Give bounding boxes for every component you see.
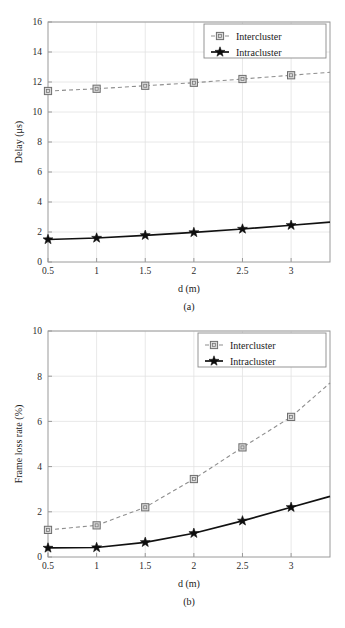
series-line-intracluster (48, 496, 330, 548)
y-tick-label: 10 (33, 107, 43, 117)
figure-caption: (b) (183, 596, 195, 608)
y-tick-label: 6 (37, 167, 42, 177)
marker-square-intercluster-0 (44, 526, 51, 533)
x-tick-label: 2 (191, 561, 196, 571)
y-tick-label: 2 (37, 507, 42, 517)
marker-square-intercluster-1 (93, 522, 100, 529)
legend-marker-square-0 (216, 32, 223, 39)
marker-square-intercluster-5 (288, 72, 295, 79)
y-axis-label: Frame loss rate (%) (13, 405, 25, 484)
x-tick-label: 2.5 (237, 561, 249, 571)
legend-label-1: Intracluster (236, 47, 282, 58)
x-tick-label: 3 (289, 561, 294, 571)
y-tick-label: 14 (33, 47, 43, 57)
y-tick-label: 8 (37, 372, 42, 382)
y-tick-label: 4 (37, 462, 42, 472)
legend-marker-square-0 (210, 341, 217, 348)
legend: InterclusterIntracluster (198, 333, 326, 367)
legend-label-0: Intercluster (230, 340, 276, 351)
y-tick-label: 16 (33, 17, 43, 27)
y-axis-label: Delay (μs) (13, 121, 25, 163)
x-tick-label: 2.5 (237, 266, 249, 276)
x-tick-label: 3 (289, 266, 294, 276)
marker-square-intercluster-4 (239, 75, 246, 82)
marker-square-intercluster-1 (93, 85, 100, 92)
x-tick-label: 1.5 (139, 561, 151, 571)
series-intercluster (44, 383, 330, 533)
y-tick-label: 4 (37, 197, 42, 207)
y-tick-label: 8 (37, 137, 42, 147)
figure-a: 02468101214160.511.522.53d (m)Delay (μs)… (0, 0, 345, 314)
y-tick-label: 6 (37, 417, 42, 427)
marker-square-intercluster-3 (190, 475, 197, 482)
legend-label-1: Intracluster (230, 356, 276, 367)
x-tick-label: 0.5 (42, 561, 54, 571)
y-tick-label: 12 (33, 77, 43, 87)
marker-square-intercluster-4 (239, 444, 246, 451)
y-tick-label: 2 (37, 227, 42, 237)
x-tick-label: 0.5 (42, 266, 54, 276)
series-intracluster (43, 496, 330, 552)
x-tick-label: 2 (191, 266, 196, 276)
y-tick-label: 10 (33, 326, 43, 336)
figure-caption: (a) (183, 301, 194, 313)
x-axis-label: d (m) (178, 283, 200, 295)
delay-chart: 02468101214160.511.522.53d (m)Delay (μs)… (0, 0, 345, 314)
figure-b: 02468100.511.522.53d (m)Frame loss rate … (0, 314, 345, 628)
marker-square-intercluster-3 (190, 79, 197, 86)
x-tick-label: 1 (94, 266, 99, 276)
x-tick-label: 1.5 (139, 266, 151, 276)
marker-square-intercluster-0 (44, 87, 51, 94)
frame-loss-rate-chart: 02468100.511.522.53d (m)Frame loss rate … (0, 314, 345, 628)
marker-square-intercluster-2 (142, 82, 149, 89)
legend-label-0: Intercluster (236, 31, 282, 42)
marker-square-intercluster-5 (288, 413, 295, 420)
series-intercluster (44, 72, 330, 95)
legend: InterclusterIntracluster (204, 24, 326, 58)
marker-square-intercluster-2 (142, 504, 149, 511)
x-axis-label: d (m) (178, 578, 200, 590)
x-tick-label: 1 (94, 561, 99, 571)
